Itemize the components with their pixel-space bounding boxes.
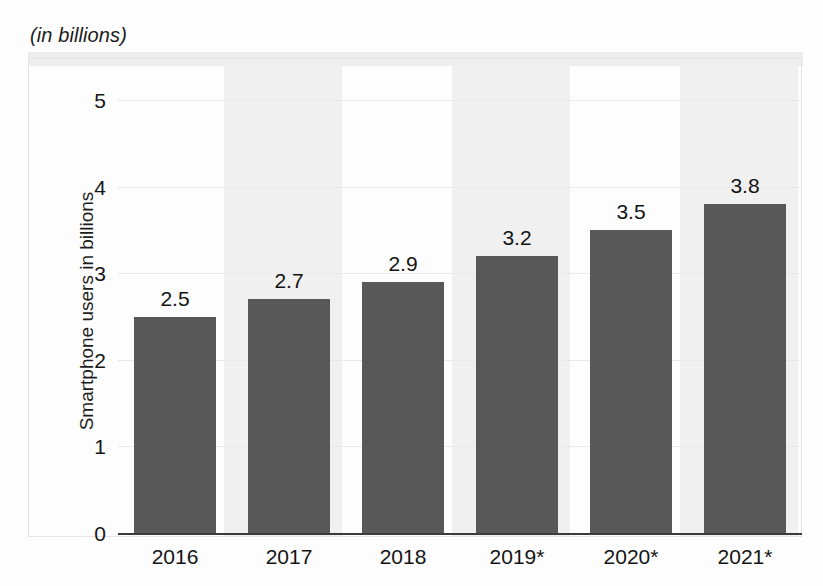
x-axis-tick-label: 2019*: [467, 545, 567, 569]
bar: [476, 256, 558, 533]
gridline: [118, 187, 802, 188]
plot-area: 012345 2.52.72.93.23.53.8 20162017201820…: [118, 100, 802, 533]
y-axis-title: Smartphone users in billions: [76, 161, 98, 461]
x-axis-tick-label: 2017: [239, 545, 339, 569]
gridline: [118, 273, 802, 274]
bar-value-label: 2.7: [249, 269, 329, 293]
y-axis-tick-label: 5: [94, 90, 106, 111]
bar-value-label: 3.5: [591, 200, 671, 224]
x-axis-line: [118, 533, 802, 535]
bar-value-label: 2.5: [135, 287, 215, 311]
x-axis-tick-label: 2018: [353, 545, 453, 569]
figure-title: (in billions): [30, 24, 127, 47]
gridline: [118, 100, 802, 101]
bar: [704, 204, 786, 533]
x-axis-tick-label: 2020*: [581, 545, 681, 569]
bar-value-label: 2.9: [363, 252, 443, 276]
y-axis-tick-label: 0: [94, 523, 106, 544]
x-axis-tick-label: 2021*: [695, 545, 795, 569]
y-axis-tick-label: 4: [94, 176, 106, 197]
y-axis-tick-label: 3: [94, 263, 106, 284]
bar-value-label: 3.2: [477, 226, 557, 250]
bar: [590, 230, 672, 533]
x-axis-tick-label: 2016: [125, 545, 225, 569]
y-axis-tick-label: 1: [94, 436, 106, 457]
bar: [134, 317, 216, 534]
gridline: [118, 360, 802, 361]
bar: [248, 299, 330, 533]
bar: [362, 282, 444, 533]
bar-value-label: 3.8: [705, 174, 785, 198]
y-axis-tick-label: 2: [94, 349, 106, 370]
gridline: [118, 446, 802, 447]
